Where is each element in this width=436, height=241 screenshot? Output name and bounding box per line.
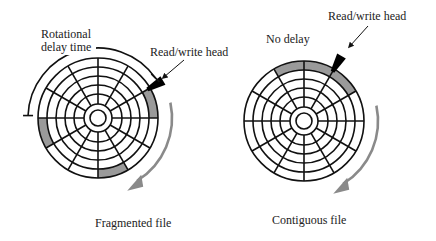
head-pointer-arrow: [164, 60, 184, 77]
left-head-label: Read/write head: [150, 45, 228, 59]
rotation-arrowhead-icon: [333, 178, 349, 194]
fragmented-caption: Fragmented file: [95, 216, 171, 230]
read-write-head-icon: [331, 54, 346, 73]
right-head-label: Read/write head: [328, 9, 406, 23]
rotation-arrowhead-icon: [127, 175, 143, 191]
head-pointer-arrow: [350, 26, 368, 46]
rotational-label-line1: Rotational: [41, 27, 92, 41]
disk-fragmentation-diagram: Rotational delay time Read/write head Fr…: [0, 0, 436, 241]
contiguous-disk: [244, 54, 364, 181]
no-delay-label: No delay: [266, 32, 310, 46]
rotational-label-line2: delay time: [41, 40, 91, 54]
contiguous-caption: Contiguous file: [272, 213, 346, 227]
fragmented-disk: [38, 58, 165, 178]
